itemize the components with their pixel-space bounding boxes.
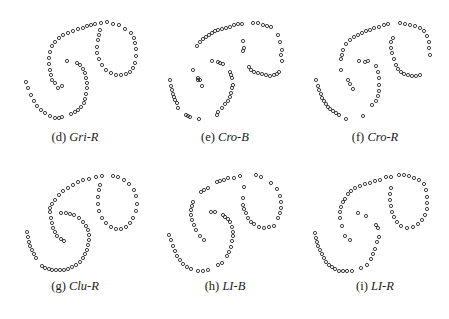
data-point (320, 252, 323, 255)
data-point (264, 73, 267, 76)
data-point (267, 225, 270, 228)
data-point (376, 94, 379, 97)
data-point (377, 89, 380, 92)
data-point (49, 216, 52, 219)
data-point (26, 235, 29, 238)
data-point (370, 103, 373, 106)
scatter-plot-d (0, 0, 150, 130)
data-point (58, 268, 61, 271)
data-point (131, 216, 134, 219)
data-point (358, 184, 361, 187)
data-point (43, 266, 46, 269)
data-point (399, 224, 402, 227)
data-point (85, 24, 88, 27)
data-point (83, 97, 86, 100)
data-point (241, 39, 244, 42)
caption-method: Cro-B (218, 130, 249, 144)
data-point (403, 22, 406, 25)
data-point (343, 197, 346, 200)
data-point (422, 29, 425, 32)
data-point (32, 99, 35, 102)
data-point (56, 86, 59, 89)
data-point (185, 265, 188, 268)
data-point (198, 234, 201, 237)
data-point (27, 240, 30, 243)
data-point (173, 249, 176, 252)
data-point (99, 21, 102, 24)
data-point (374, 64, 377, 67)
data-point (373, 179, 376, 182)
data-point (249, 220, 252, 223)
data-point (360, 31, 363, 34)
data-point (32, 252, 35, 255)
data-point (83, 71, 86, 74)
data-point (410, 74, 413, 77)
data-point (34, 256, 37, 259)
data-point (337, 113, 340, 116)
data-point (66, 186, 69, 189)
data-point (201, 37, 204, 40)
caption-label: (g) (51, 279, 66, 293)
data-point (129, 31, 132, 34)
data-point (318, 248, 321, 251)
data-point (316, 84, 319, 87)
data-point (242, 207, 245, 210)
data-point (417, 178, 420, 181)
data-point (26, 86, 29, 89)
caption-label: (d) (52, 130, 67, 144)
data-point (104, 221, 107, 224)
data-point (254, 173, 257, 176)
data-point (209, 210, 212, 213)
data-point (86, 243, 89, 246)
data-point (333, 267, 336, 270)
data-point (133, 41, 136, 44)
data-point (87, 238, 90, 241)
panel-d: (d) Gri-R (0, 0, 150, 159)
data-point (190, 204, 193, 207)
data-point (210, 31, 213, 34)
data-point (226, 99, 229, 102)
data-point (48, 206, 51, 209)
data-point (85, 248, 88, 251)
data-point (256, 21, 259, 24)
panel-i: (i) LI-R (300, 160, 449, 319)
data-point (170, 88, 173, 91)
data-point (57, 193, 60, 196)
data-point (53, 40, 56, 43)
data-point (269, 25, 272, 28)
data-point (345, 269, 348, 272)
data-point (93, 22, 96, 25)
data-point (96, 202, 99, 205)
data-point (206, 186, 209, 189)
data-point (114, 73, 117, 76)
data-point (280, 48, 283, 51)
data-point (131, 66, 134, 69)
data-point (425, 34, 428, 37)
data-point (53, 81, 56, 84)
data-point (353, 186, 356, 189)
data-point (167, 233, 170, 236)
data-point (397, 173, 400, 176)
panel-e: (e) Cro-B (150, 0, 300, 159)
data-point (398, 21, 401, 24)
data-point (81, 67, 84, 70)
data-point (76, 180, 79, 183)
data-point (77, 216, 80, 219)
data-point (396, 67, 399, 70)
data-point (50, 268, 53, 271)
data-point (59, 237, 62, 240)
data-point (81, 220, 84, 223)
data-point (384, 175, 387, 178)
data-point (363, 182, 366, 185)
data-point (394, 63, 397, 66)
data-point (411, 225, 414, 228)
data-point (228, 70, 231, 73)
data-point (389, 204, 392, 207)
data-point (260, 72, 263, 75)
data-point (226, 217, 229, 220)
data-point (220, 27, 223, 30)
data-point (313, 231, 316, 234)
data-point (66, 31, 69, 34)
data-point (265, 24, 268, 27)
data-point (222, 178, 225, 181)
